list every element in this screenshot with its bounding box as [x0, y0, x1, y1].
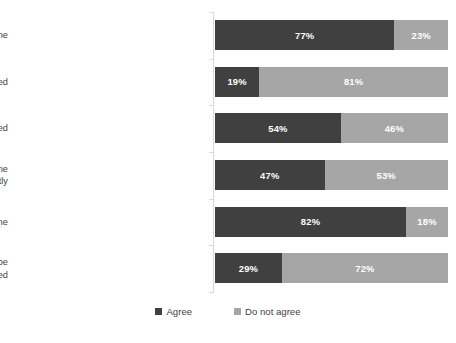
- stacked-bar: 29%72%: [215, 253, 448, 283]
- chart-container: Prison terms in themselves do not reduce…: [0, 0, 456, 343]
- bar-segment-agree: 29%: [215, 253, 282, 283]
- bar-segment-do-not-agree: 18%: [406, 207, 448, 237]
- bar-segment-agree: 19%: [215, 67, 259, 97]
- bar-segment-do-not-agree: 23%: [394, 20, 448, 50]
- chart-row: The death penalty should be restored54%4…: [0, 105, 456, 152]
- legend-label: Do not agree: [245, 306, 300, 317]
- chart-row: Mild drugs such as marihuana should be l…: [0, 245, 456, 292]
- chart-legend: AgreeDo not agree: [0, 306, 456, 317]
- bar-segment-agree: 77%: [215, 20, 394, 50]
- chart-row: Increased welfare spending would reduce …: [0, 152, 456, 199]
- category-label: Mild drugs such as marihuana should be l…: [0, 256, 8, 281]
- bar-segment-do-not-agree: 72%: [282, 253, 448, 283]
- axis-tick: [209, 199, 214, 200]
- chart-row: Abortion should be banned19%81%: [0, 59, 456, 106]
- axis-tick: [209, 105, 214, 106]
- stacked-bar: 47%53%: [215, 160, 448, 190]
- bar-segment-do-not-agree: 46%: [341, 113, 448, 143]
- plot-area: Prison terms in themselves do not reduce…: [0, 12, 456, 292]
- legend-item[interactable]: Do not agree: [234, 306, 300, 317]
- category-label: Prison terms in themselves do not reduce…: [0, 29, 8, 41]
- axis-tick: [209, 12, 214, 13]
- category-label: Increased welfare spending would reduce …: [0, 163, 8, 188]
- axis-tick: [209, 152, 214, 153]
- bar-segment-do-not-agree: 81%: [259, 67, 448, 97]
- stacked-bar: 82%18%: [215, 207, 448, 237]
- chart-row: Harsher sentences would deter crime82%18…: [0, 199, 456, 246]
- stacked-bar: 77%23%: [215, 20, 448, 50]
- legend-item[interactable]: Agree: [155, 306, 192, 317]
- chart-row: Prison terms in themselves do not reduce…: [0, 12, 456, 59]
- legend-swatch-icon: [155, 308, 162, 315]
- bar-segment-do-not-agree: 53%: [325, 160, 448, 190]
- bar-segment-agree: 54%: [215, 113, 341, 143]
- bar-segment-agree: 47%: [215, 160, 325, 190]
- category-label: Abortion should be banned: [0, 76, 8, 88]
- legend-label: Agree: [166, 306, 192, 317]
- stacked-bar: 54%46%: [215, 113, 448, 143]
- axis-tick: [209, 245, 214, 246]
- stacked-bar: 19%81%: [215, 67, 448, 97]
- legend-swatch-icon: [234, 308, 241, 315]
- category-label: Harsher sentences would deter crime: [0, 216, 8, 228]
- axis-tick: [209, 292, 214, 293]
- axis-tick: [209, 59, 214, 60]
- category-label: The death penalty should be restored: [0, 122, 8, 134]
- bar-segment-agree: 82%: [215, 207, 406, 237]
